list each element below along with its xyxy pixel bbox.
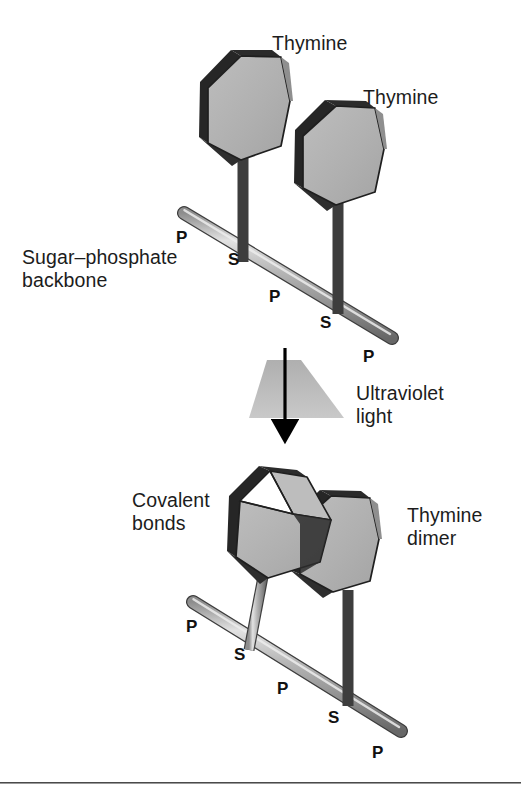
backbone-group-p-top-3: P [363, 348, 374, 365]
bottom-dna-segment [193, 466, 401, 731]
backbone-group-s-bottom-1: S [234, 646, 245, 663]
label-sugar-phosphate-backbone: Sugar–phosphate backbone [22, 246, 177, 292]
backbone-group-p-bottom-2: P [277, 680, 288, 697]
backbone-group-s-bottom-2: S [328, 709, 339, 726]
backbone-group-p-top-1: P [176, 229, 187, 246]
sugar-phosphate-backbone-bottom [193, 599, 401, 731]
label-thymine-dimer: Thymine dimer [407, 504, 482, 550]
ultraviolet-beam [249, 360, 344, 418]
label-covalent-bonds: Covalent bonds [132, 489, 210, 535]
bottom-divider-rule [0, 782, 521, 784]
top-dna-segment [184, 50, 392, 338]
thymine-base-2 [294, 100, 387, 211]
label-thymine-top-left: Thymine [272, 32, 347, 55]
label-ultraviolet-light: Ultraviolet light [356, 382, 444, 428]
backbone-group-s-top-2: S [320, 314, 331, 331]
backbone-group-p-top-2: P [269, 288, 280, 305]
backbone-group-s-top-1: S [228, 251, 239, 268]
label-thymine-top-right: Thymine [363, 86, 438, 109]
backbone-group-p-bottom-1: P [186, 618, 197, 635]
thymine-dimer-figure: Thymine Thymine Sugar–phosphate backbone… [0, 0, 521, 801]
backbone-group-p-bottom-3: P [372, 744, 383, 761]
sugar-phosphate-backbone-top [184, 210, 392, 338]
thymine-base-1 [199, 50, 293, 166]
